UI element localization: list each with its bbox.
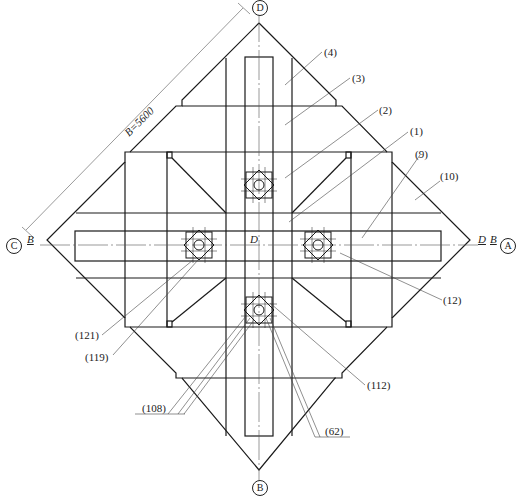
callout-119: (119) — [85, 352, 108, 363]
axis-label-right-d: D — [478, 234, 486, 245]
axis-marker-left: C — [6, 238, 22, 254]
axis-marker-top: D — [252, 0, 268, 16]
outer-outline — [47, 23, 470, 470]
callout-1: (1) — [410, 126, 423, 137]
axis-label-right-b: B — [490, 234, 497, 245]
callout-2: (2) — [379, 105, 392, 116]
callout-112: (112) — [367, 380, 390, 391]
callout-121: (121) — [75, 330, 99, 341]
callout-62: (62) — [325, 426, 343, 437]
callout-108: (108) — [142, 403, 166, 414]
callout-4: (4) — [324, 47, 337, 58]
callout-9: (9) — [415, 149, 428, 160]
axis-label-left-b: B — [27, 234, 34, 245]
axis-marker-right: A — [500, 238, 516, 254]
axis-label-center-d: D — [250, 234, 258, 245]
engineering-drawing: D A B C B D D B B=5600 (4) (3) (2) (1) (… — [0, 0, 517, 497]
callout-10: (10) — [440, 171, 458, 182]
axis-marker-bottom: B — [252, 480, 268, 496]
horizontal-beam — [75, 231, 441, 261]
plan-view-drawing — [0, 0, 517, 497]
callout-12: (12) — [443, 295, 461, 306]
callout-3: (3) — [352, 73, 365, 84]
